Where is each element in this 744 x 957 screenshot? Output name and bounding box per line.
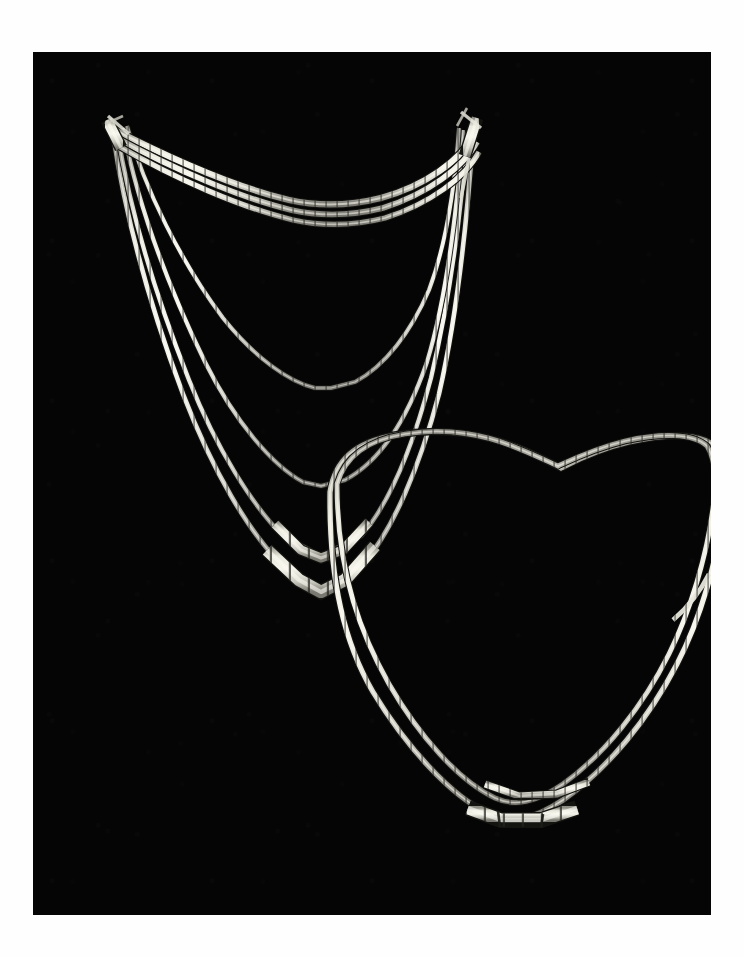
upper-necklace-left-terminal — [105, 116, 129, 148]
plate-caption-area — [33, 921, 711, 947]
upper-necklace-collar — [111, 128, 479, 225]
photo-plate — [33, 52, 711, 915]
lower-necklace-pendant-section — [468, 782, 589, 828]
photographic-print-page: Multi-strand tubular shell bead necklace… — [0, 0, 744, 957]
lower-pendant-bead-row — [468, 808, 577, 828]
lower-strand-outer — [330, 432, 711, 820]
upper-necklace-pendant-section — [267, 522, 375, 592]
upper-necklace — [105, 108, 481, 592]
necklaces-illustration — [33, 52, 711, 915]
lower-necklace-strands — [330, 431, 711, 819]
pendant-bead-row-upper — [275, 522, 369, 558]
